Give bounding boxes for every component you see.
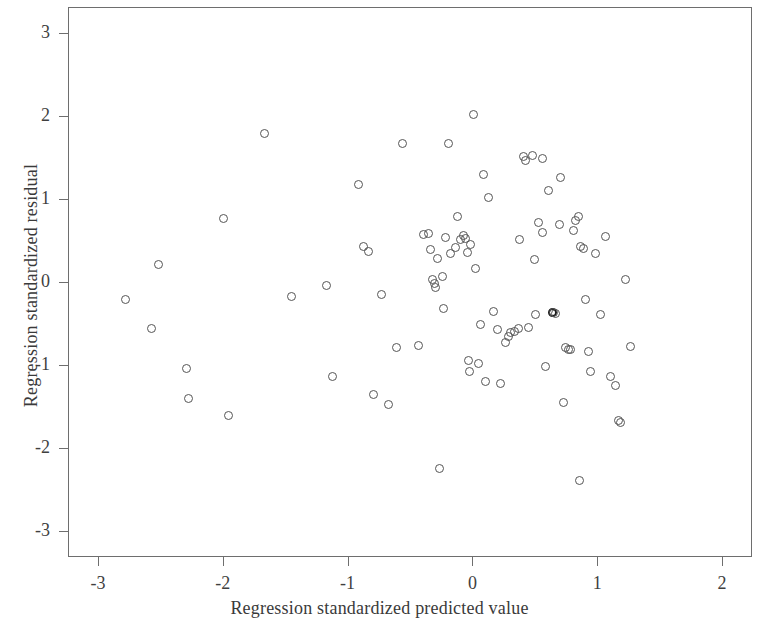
data-points-layer [69,8,751,556]
data-point [528,151,537,160]
x-axis-tick [597,557,598,566]
y-axis-tick [59,116,68,117]
y-axis-tick-label: -3 [6,521,50,539]
data-point [471,264,480,273]
data-point [538,154,547,163]
plot-area-frame [68,7,752,557]
data-point [439,304,448,313]
data-point [469,110,478,119]
data-point [493,325,502,334]
data-point [453,212,462,221]
data-point [555,220,564,229]
data-point [515,235,524,244]
x-axis-title: Regression standardized predicted value [0,598,759,619]
data-point [154,260,163,269]
data-point [559,398,568,407]
data-point [398,139,407,148]
data-point [147,324,156,333]
y-axis-title: Regression standardized residual [21,121,42,451]
data-point [484,193,493,202]
data-point [466,240,475,249]
y-axis-tick [59,199,68,200]
data-point [524,323,533,332]
data-point [328,372,337,381]
data-point [574,212,583,221]
data-point [463,248,472,257]
data-point [384,400,393,409]
data-point [438,272,447,281]
data-point [566,345,575,354]
data-point [606,372,615,381]
data-point [451,243,460,252]
data-point [534,218,543,227]
data-point [575,476,584,485]
data-point [514,324,523,333]
data-point [476,320,485,329]
data-point [586,367,595,376]
scatter-plot-figure: 3210-1-2-3 -3-2-1012 Regression standard… [0,0,759,632]
data-point [121,295,130,304]
data-point [626,342,635,351]
data-point [581,295,590,304]
data-point [369,390,378,399]
data-point [426,245,435,254]
data-point [579,244,588,253]
x-axis-tick-label: -2 [193,574,253,592]
data-point [377,290,386,299]
data-point [182,364,191,373]
data-point [474,359,483,368]
y-axis-tick [59,33,68,34]
data-point [479,170,488,179]
data-point [184,394,193,403]
y-axis-tick-label: 3 [6,23,50,41]
data-point [596,310,605,319]
data-point [287,292,296,301]
data-point [354,180,363,189]
data-point [219,214,228,223]
data-point [556,173,565,182]
data-point [616,418,625,427]
data-point [496,379,505,388]
x-axis-tick [722,557,723,566]
data-point [504,332,513,341]
data-point [435,464,444,473]
y-axis-tick [59,282,68,283]
data-point [419,230,428,239]
data-point [621,275,630,284]
data-point [591,249,600,258]
data-point [538,228,547,237]
data-point [392,343,401,352]
x-axis-tick-label: 1 [567,574,627,592]
data-point [322,281,331,290]
y-axis-tick [59,531,68,532]
x-axis-tick [223,557,224,566]
data-point [544,186,553,195]
data-point [569,226,578,235]
x-axis-tick-label: -1 [318,574,378,592]
data-point [601,232,610,241]
data-point [465,367,474,376]
x-axis-tick [472,557,473,566]
data-point [611,381,620,390]
x-axis-tick-label: 2 [692,574,752,592]
data-point [441,233,450,242]
data-point [464,356,473,365]
y-axis-tick [59,365,68,366]
data-point [224,411,233,420]
data-point [444,139,453,148]
data-point [364,247,373,256]
data-point [489,307,498,316]
data-point [433,254,442,263]
data-point [414,341,423,350]
data-point [584,347,593,356]
data-point [431,283,440,292]
x-axis-tick-label: -3 [68,574,128,592]
y-axis-tick [59,448,68,449]
data-point [531,310,540,319]
data-point [541,362,550,371]
x-axis-tick-label: 0 [442,574,502,592]
data-point [481,377,490,386]
x-axis-tick [98,557,99,566]
x-axis-tick [348,557,349,566]
data-point [530,255,539,264]
